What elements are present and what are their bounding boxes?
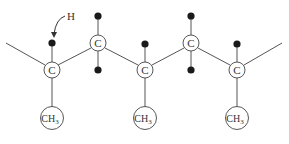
methyl-group-c1: CH3 [41,107,64,130]
carbon-atom-c5: C [229,62,245,78]
carbon-atom-c3: C [137,62,153,78]
carbon-atom-c2: C [90,35,106,51]
methyl-group-c5: CH3 [226,107,249,130]
methyl-label: CH [134,113,148,124]
arrow-head-icon [51,32,57,38]
bond-c2-c3 [105,48,138,65]
carbon-label: C [141,64,148,76]
methyl-subscript: 3 [240,118,244,126]
annotation-arrow [54,16,65,34]
bond-c1-c2 [58,48,91,65]
bond-right-end [244,43,282,65]
bond-c3-c4 [152,48,184,65]
annotation-label-h: H [67,10,75,22]
carbon-label: C [233,64,240,76]
hydrogen-atom [94,12,101,19]
carbon-label: C [187,37,194,49]
bond-c4-c5 [198,48,230,65]
methyl-subscript: 3 [55,118,59,126]
methyl-group-c3: CH3 [134,107,157,130]
hydrogen-atom [141,40,148,47]
methyl-subscript: 3 [148,118,152,126]
bond-left-end [6,43,45,65]
carbon-atom-c1: C [44,62,60,78]
carbon-atom-c4: C [183,35,199,51]
carbon-label: C [94,37,101,49]
hydrogen-atom [48,39,55,46]
carbon-label: C [48,64,55,76]
polymer-chain-diagram: C C C C C CH3 CH3 CH3 H [0,0,289,144]
hydrogen-atom [187,66,194,73]
hydrogen-atom [187,12,194,19]
hydrogen-atom [94,66,101,73]
hydrogen-annotation: H [51,10,75,38]
methyl-bonds [52,78,237,107]
hydrogen-atom [233,40,240,47]
methyl-label: CH [226,113,240,124]
methyl-label: CH [41,113,55,124]
